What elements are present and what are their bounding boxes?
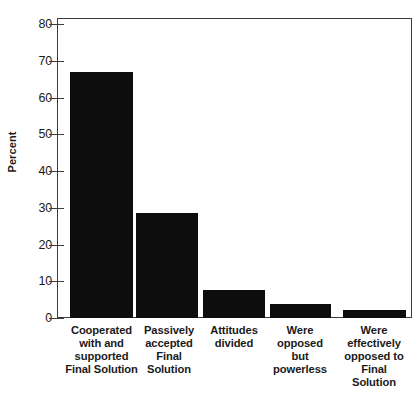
bar xyxy=(203,290,265,318)
bar-chart: Percent 01020304050607080 Cooperated wit… xyxy=(0,0,419,401)
bar xyxy=(270,304,331,318)
bar xyxy=(70,72,133,318)
bar xyxy=(136,213,198,318)
x-axis-category-label: Passively accepted Final Solution xyxy=(133,324,205,376)
x-axis-category-label: Were effectively opposed to Final Soluti… xyxy=(329,324,419,389)
x-axis-category-labels: Cooperated with and supported Final Solu… xyxy=(0,324,419,401)
bar xyxy=(343,310,406,318)
